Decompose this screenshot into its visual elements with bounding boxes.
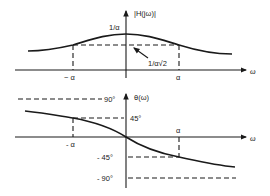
phase-x-label: ω xyxy=(250,134,256,143)
phase-x-tick-neg-alpha: - α xyxy=(66,140,76,149)
tick-90-label: 90° xyxy=(104,95,115,104)
tick-minus-45-label: - 45° xyxy=(97,153,113,162)
tick-minus-90-label: - 90° xyxy=(97,174,113,183)
half-power-pointer-arrow xyxy=(134,48,148,58)
tick-45-label: 45° xyxy=(130,114,141,123)
magnitude-x-label: ω xyxy=(250,67,256,76)
phase-plot: 90° θ(ω) 45° - α α ω - 45° - 90° xyxy=(15,93,256,188)
magnitude-x-tick-pos-alpha: α xyxy=(176,73,181,82)
frequency-response-diagram: |H(jω)| 1/α 1/α√2 − α α ω 90° θ(ω) 45° -… xyxy=(0,0,270,196)
phase-x-tick-pos-alpha: α xyxy=(176,126,181,135)
phase-y-label: θ(ω) xyxy=(134,93,150,102)
half-power-label: 1/α√2 xyxy=(148,59,167,68)
magnitude-x-tick-neg-alpha: − α xyxy=(64,73,75,82)
magnitude-y-label: |H(jω)| xyxy=(134,9,156,18)
magnitude-curve xyxy=(28,34,232,54)
magnitude-plot: |H(jω)| 1/α 1/α√2 − α α ω xyxy=(15,9,256,82)
peak-label: 1/α xyxy=(109,23,120,32)
